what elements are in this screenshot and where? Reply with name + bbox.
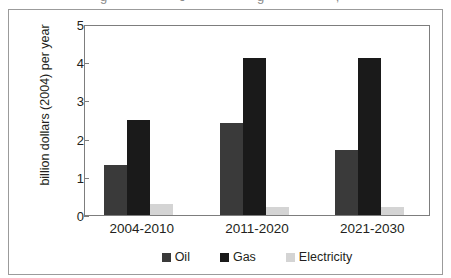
bars-layer <box>85 26 429 215</box>
x-tick-label-2004-2010: 2004-2010 <box>92 221 192 236</box>
bar-chart-figure: billion dollars (2004) per year 012345 2… <box>0 0 451 278</box>
x-tick-label-2011-2020: 2011-2020 <box>207 221 307 236</box>
y-tick-label-3: 3 <box>62 95 84 108</box>
bar-oil-2011-2020 <box>220 123 243 215</box>
legend-swatch-electricity-icon <box>286 253 295 262</box>
y-tick-mark-4 <box>84 63 89 64</box>
legend-label-electricity: Electricity <box>299 250 352 264</box>
bar-electricity-2011-2020 <box>266 207 289 215</box>
bar-oil-2004-2010 <box>104 165 127 215</box>
legend-label-gas: Gas <box>233 250 256 264</box>
y-tick-mark-2 <box>84 140 89 141</box>
bar-electricity-2004-2010 <box>150 204 173 215</box>
legend-label-oil: Oil <box>175 250 190 264</box>
y-tick-label-0: 0 <box>62 210 84 223</box>
y-tick-label-5: 5 <box>62 19 84 32</box>
bar-oil-2021-2030 <box>335 150 358 215</box>
y-tick-mark-3 <box>84 101 89 102</box>
legend-item-electricity[interactable]: Electricity <box>286 250 352 264</box>
y-tick-mark-1 <box>84 178 89 179</box>
y-tick-label-1: 1 <box>62 171 84 184</box>
y-axis-title: billion dollars (2004) per year <box>38 0 52 210</box>
legend-swatch-gas-icon <box>220 253 229 262</box>
y-axis-tick-labels: 012345 <box>55 25 84 216</box>
legend-item-oil[interactable]: Oil <box>162 250 190 264</box>
bar-gas-2004-2010 <box>127 120 150 216</box>
legend-swatch-oil-icon <box>162 253 171 262</box>
bar-gas-2011-2020 <box>243 58 266 215</box>
plot-area <box>84 25 430 216</box>
y-tick-mark-5 <box>84 25 89 26</box>
y-tick-mark-0 <box>84 216 89 217</box>
legend-item-gas[interactable]: Gas <box>220 250 256 264</box>
y-tick-label-2: 2 <box>62 133 84 146</box>
x-tick-label-2021-2030: 2021-2030 <box>322 221 422 236</box>
bar-electricity-2021-2030 <box>381 207 404 215</box>
bar-gas-2021-2030 <box>358 58 381 215</box>
chart-legend: OilGasElectricity <box>84 250 430 264</box>
y-tick-label-4: 4 <box>62 57 84 70</box>
